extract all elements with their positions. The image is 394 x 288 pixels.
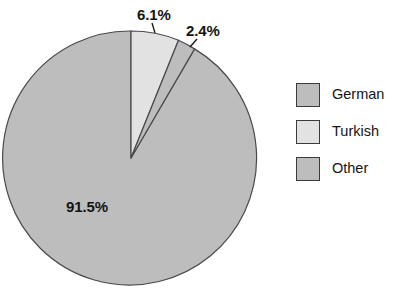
leader-line-other	[190, 39, 197, 47]
leader-line-turkish	[152, 23, 155, 33]
legend-item-german[interactable]: German	[296, 82, 394, 107]
pie-chart: 91.5% 6.1% 2.4% German Turkish Other	[0, 0, 394, 288]
legend-label-other: Other	[332, 161, 368, 176]
chart-legend: German Turkish Other	[296, 82, 394, 181]
legend-swatch-german	[296, 83, 320, 107]
legend-item-turkish[interactable]: Turkish	[296, 119, 394, 144]
legend-swatch-other	[296, 157, 320, 181]
legend-label-german: German	[332, 87, 384, 102]
legend-label-turkish: Turkish	[332, 124, 379, 139]
legend-swatch-turkish	[296, 120, 320, 144]
pie-slice-label-turkish: 6.1%	[137, 6, 171, 23]
pie-slice-label-german: 91.5%	[66, 198, 108, 215]
pie-slice-label-other: 2.4%	[186, 22, 220, 39]
pie-slice-german[interactable]	[3, 31, 257, 285]
legend-item-other[interactable]: Other	[296, 156, 394, 181]
